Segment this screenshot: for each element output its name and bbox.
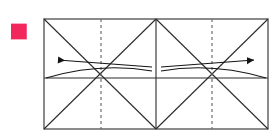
origami-diagram: [0, 0, 278, 140]
figure-root: 6: [0, 0, 278, 140]
